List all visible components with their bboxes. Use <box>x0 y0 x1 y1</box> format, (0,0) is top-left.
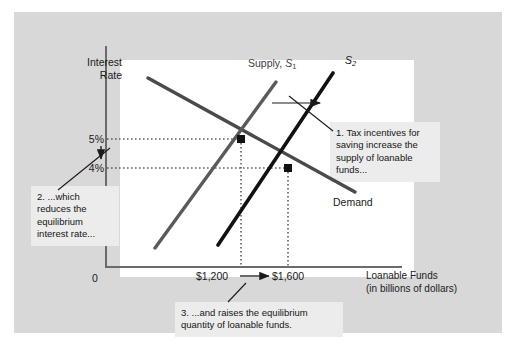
equilibrium-marker-new <box>284 164 292 172</box>
callout-2-leader-line <box>58 148 110 190</box>
chart-graphics-overlay <box>0 0 516 355</box>
equilibrium-marker-initial <box>237 135 245 143</box>
supply1-curve <box>155 82 276 248</box>
demand-curve <box>148 78 355 192</box>
supply2-curve <box>218 73 333 245</box>
callout-3-leader-line <box>228 283 246 302</box>
